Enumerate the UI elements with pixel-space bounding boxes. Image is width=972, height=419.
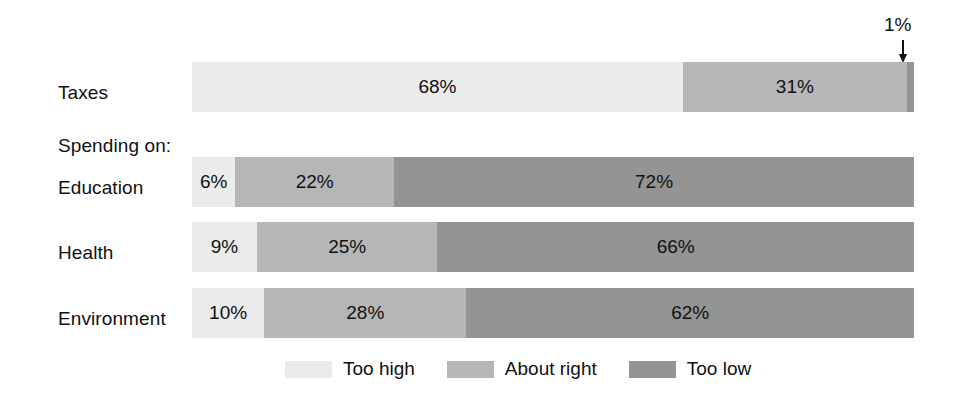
bar-health: 9% 25% 66% bbox=[192, 222, 914, 272]
row-label-taxes: Taxes bbox=[58, 82, 108, 104]
annotation-one-percent: 1% bbox=[884, 14, 911, 36]
group-heading-spending-on: Spending on: bbox=[58, 135, 171, 157]
chart-legend: Too high About right Too low bbox=[285, 358, 751, 380]
legend-swatch-about-right bbox=[447, 361, 494, 378]
segment-environment-too-low: 62% bbox=[466, 288, 914, 338]
segment-taxes-too-low bbox=[907, 62, 914, 112]
bar-environment: 10% 28% 62% bbox=[192, 288, 914, 338]
legend-item-too-low: Too low bbox=[629, 358, 751, 380]
segment-education-too-low: 72% bbox=[394, 157, 914, 207]
legend-label-too-high: Too high bbox=[343, 358, 415, 380]
segment-health-too-low: 66% bbox=[437, 222, 914, 272]
bar-taxes: 68% 31% bbox=[192, 62, 914, 112]
annotation-arrow-icon bbox=[899, 40, 908, 63]
stacked-bar-chart: 1% Taxes 68% 31% Spending on: Education … bbox=[0, 0, 972, 419]
legend-swatch-too-high bbox=[285, 361, 332, 378]
segment-education-too-high: 6% bbox=[192, 157, 235, 207]
legend-swatch-too-low bbox=[629, 361, 676, 378]
segment-education-about-right: 22% bbox=[235, 157, 394, 207]
segment-health-too-high: 9% bbox=[192, 222, 257, 272]
segment-taxes-too-high: 68% bbox=[192, 62, 683, 112]
legend-label-about-right: About right bbox=[505, 358, 597, 380]
segment-health-about-right: 25% bbox=[257, 222, 438, 272]
row-label-health: Health bbox=[58, 242, 114, 264]
segment-environment-too-high: 10% bbox=[192, 288, 264, 338]
row-label-environment: Environment bbox=[58, 308, 166, 330]
segment-environment-about-right: 28% bbox=[264, 288, 466, 338]
segment-taxes-about-right: 31% bbox=[683, 62, 907, 112]
row-label-education: Education bbox=[58, 177, 143, 199]
legend-item-too-high: Too high bbox=[285, 358, 415, 380]
bar-education: 6% 22% 72% bbox=[192, 157, 914, 207]
legend-label-too-low: Too low bbox=[687, 358, 751, 380]
legend-item-about-right: About right bbox=[447, 358, 597, 380]
